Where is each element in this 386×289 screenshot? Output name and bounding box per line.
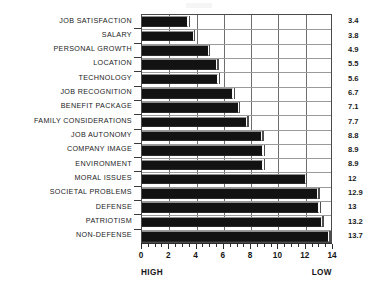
scan-artifact <box>186 3 212 8</box>
category-tick <box>134 86 141 87</box>
x-tick-major <box>223 244 224 249</box>
category-label: DEFENSE <box>4 203 132 211</box>
value-label: 12 <box>348 174 356 183</box>
bar <box>142 231 329 242</box>
x-tick-major <box>277 244 278 249</box>
bar <box>142 160 263 171</box>
bar-row <box>142 15 333 29</box>
x-tick-minor <box>318 244 319 247</box>
x-tick-minor <box>202 244 203 247</box>
x-tick-minor <box>298 244 299 247</box>
bar-row <box>142 87 333 101</box>
category-label: ENVIRONMENT <box>4 160 132 168</box>
category-label: PERSONAL GROWTH <box>4 45 132 53</box>
category-label: MORAL ISSUES <box>4 174 132 182</box>
x-tick-minor <box>237 244 238 247</box>
x-tick-major <box>305 244 306 249</box>
category-tick <box>134 43 141 44</box>
bar <box>142 202 319 213</box>
bar-chart: JOB SATISFACTIONSALARYPERSONAL GROWTHLOC… <box>0 0 386 289</box>
category-label: TECHNOLOGY <box>4 74 132 82</box>
x-tick-major <box>250 244 251 249</box>
bar <box>142 102 239 113</box>
bar-row <box>142 44 333 58</box>
value-label: 13.7 <box>348 231 363 240</box>
value-label: 3.8 <box>348 31 359 40</box>
x-tick-minor <box>284 244 285 247</box>
x-tick-label: 4 <box>193 251 198 261</box>
x-tick-major <box>332 244 333 249</box>
value-label: 8.9 <box>348 145 359 154</box>
x-tick-label: 8 <box>248 251 253 261</box>
category-tick <box>134 200 141 201</box>
x-tick-minor <box>161 244 162 247</box>
bar-row <box>142 230 333 244</box>
bar <box>142 88 233 99</box>
category-tick <box>134 229 141 230</box>
bar-row <box>142 187 333 201</box>
category-tick <box>134 143 141 144</box>
bar-row <box>142 130 333 144</box>
bar-row <box>142 172 333 186</box>
category-label: NON-DEFENSE <box>4 231 132 239</box>
value-label: 5.5 <box>348 59 359 68</box>
value-label: 8.9 <box>348 159 359 168</box>
axis-annotation-high: HIGH <box>141 268 163 278</box>
x-tick-label: 14 <box>327 251 336 261</box>
value-label: 4.9 <box>348 45 359 54</box>
x-tick-label: 0 <box>139 251 144 261</box>
category-label: JOB AUTONOMY <box>4 131 132 139</box>
bar-row <box>142 72 333 86</box>
x-tick-minor <box>243 244 244 247</box>
bar <box>142 188 318 199</box>
value-label: 13 <box>348 202 356 211</box>
x-tick-minor <box>230 244 231 247</box>
x-tick-minor <box>175 244 176 247</box>
value-label: 6.7 <box>348 88 359 97</box>
plot-area <box>141 14 332 243</box>
x-tick-minor <box>148 244 149 247</box>
category-tick <box>134 100 141 101</box>
category-label: BENEFIT PACKAGE <box>4 102 132 110</box>
x-tick-major <box>196 244 197 249</box>
category-tick <box>134 57 141 58</box>
value-label: 7.1 <box>348 102 359 111</box>
bar <box>142 217 322 228</box>
x-tick-minor <box>257 244 258 247</box>
bar <box>142 31 194 42</box>
bar-row <box>142 101 333 115</box>
x-tick-minor <box>325 244 326 247</box>
category-label: LOCATION <box>4 59 132 67</box>
value-label: 8.8 <box>348 131 359 140</box>
x-tick-label: 12 <box>300 251 309 261</box>
category-label: FAMILY CONSIDERATIONS <box>4 117 132 125</box>
x-tick-label: 10 <box>273 251 282 261</box>
category-tick <box>134 214 141 215</box>
category-label: PATRIOTISM <box>4 217 132 225</box>
bar-row <box>142 29 333 43</box>
category-label: SALARY <box>4 31 132 39</box>
x-tick-minor <box>216 244 217 247</box>
category-tick <box>134 129 141 130</box>
bar <box>142 16 188 27</box>
bar-row <box>142 201 333 215</box>
bar-row <box>142 144 333 158</box>
x-tick-minor <box>182 244 183 247</box>
value-label: 12.9 <box>348 188 363 197</box>
bar <box>142 117 247 128</box>
value-label: 5.6 <box>348 74 359 83</box>
bar <box>142 174 306 185</box>
x-tick-minor <box>209 244 210 247</box>
x-tick-minor <box>189 244 190 247</box>
category-label: COMPANY IMAGE <box>4 145 132 153</box>
category-tick <box>134 186 141 187</box>
category-label: JOB SATISFACTION <box>4 17 132 25</box>
value-label: 3.4 <box>348 16 359 25</box>
x-axis-tick-labels: 02468101214 <box>141 251 332 262</box>
bar-row <box>142 115 333 129</box>
category-tick <box>134 71 141 72</box>
x-tick-minor <box>155 244 156 247</box>
bar-row <box>142 215 333 229</box>
bar-row <box>142 158 333 172</box>
category-tick <box>134 28 141 29</box>
